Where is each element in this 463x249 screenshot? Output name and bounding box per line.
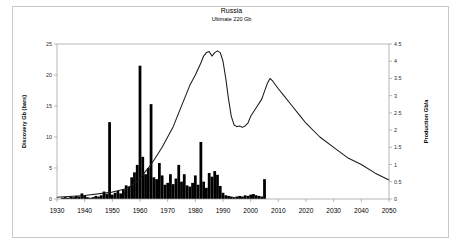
x-tick-label: 2020 bbox=[299, 207, 314, 214]
x-tick-label: 1980 bbox=[188, 207, 203, 214]
x-tick-label: 1970 bbox=[160, 207, 175, 214]
y2-tick-label: 4.5 bbox=[394, 41, 402, 47]
bar bbox=[105, 194, 108, 199]
bar bbox=[258, 196, 261, 199]
bar bbox=[252, 194, 255, 199]
bar bbox=[247, 196, 250, 199]
bar bbox=[97, 197, 100, 199]
y-tick-label: 25 bbox=[46, 41, 52, 47]
bar bbox=[255, 195, 258, 199]
bar bbox=[147, 168, 150, 199]
x-tick-label: 1930 bbox=[50, 207, 65, 214]
y2-tick-label: 3 bbox=[394, 93, 397, 99]
y2-tick-label: 2 bbox=[394, 127, 397, 133]
bar bbox=[169, 174, 172, 199]
y2-tick-label: 0 bbox=[394, 196, 397, 202]
bar bbox=[116, 191, 119, 199]
x-tick-label: 1940 bbox=[77, 207, 92, 214]
bar bbox=[194, 175, 197, 199]
discovery-bars-group bbox=[61, 66, 266, 199]
x-tick-label: 2030 bbox=[326, 207, 341, 214]
bar bbox=[78, 197, 81, 199]
x-tick-label: 2000 bbox=[243, 207, 258, 214]
bar bbox=[152, 177, 155, 199]
bar bbox=[241, 197, 244, 199]
bar bbox=[175, 179, 178, 199]
bar bbox=[244, 195, 247, 199]
x-tick-label: 2050 bbox=[382, 207, 397, 214]
bar bbox=[133, 172, 136, 199]
bar bbox=[219, 186, 222, 199]
y2-tick-label: 3.5 bbox=[394, 75, 402, 81]
bar bbox=[208, 173, 211, 199]
y-tick-label: 20 bbox=[46, 72, 52, 78]
bar bbox=[227, 196, 230, 199]
y-tick-label: 0 bbox=[49, 196, 52, 202]
bar bbox=[158, 163, 161, 199]
y-tick-label: 5 bbox=[49, 165, 52, 171]
bar bbox=[238, 196, 241, 199]
bar bbox=[122, 190, 125, 199]
y-tick-label: 10 bbox=[46, 134, 52, 140]
bar bbox=[172, 184, 175, 199]
y2-axis-title: Production Gb/a bbox=[423, 99, 429, 143]
bar bbox=[235, 197, 238, 199]
bar bbox=[202, 182, 205, 199]
y-axis-title: Discovery Gb (bars) bbox=[21, 95, 27, 148]
bar bbox=[130, 177, 133, 199]
bar bbox=[188, 187, 191, 199]
bar bbox=[94, 196, 97, 199]
bar bbox=[119, 193, 122, 199]
bar bbox=[230, 197, 233, 199]
bar bbox=[164, 185, 167, 199]
bar bbox=[249, 195, 252, 199]
bar bbox=[144, 174, 147, 199]
bar bbox=[177, 165, 180, 199]
chart-svg: 051015202500.511.522.533.544.51930194019… bbox=[0, 0, 463, 249]
bar bbox=[216, 175, 219, 199]
production-curve-group bbox=[57, 51, 389, 197]
y2-tick-label: 1 bbox=[394, 162, 397, 168]
bar bbox=[197, 185, 200, 199]
production-curve bbox=[57, 51, 389, 197]
bar bbox=[211, 177, 214, 199]
x-tick-label: 1990 bbox=[216, 207, 231, 214]
bar bbox=[166, 183, 169, 199]
bar bbox=[128, 187, 131, 199]
bar bbox=[183, 174, 186, 199]
x-tick-label: 1960 bbox=[133, 207, 148, 214]
y2-tick-label: 2.5 bbox=[394, 110, 402, 116]
bar bbox=[111, 195, 114, 199]
x-tick-label: 2040 bbox=[354, 207, 369, 214]
bar bbox=[100, 195, 103, 199]
bar bbox=[125, 185, 128, 199]
bar bbox=[186, 185, 189, 199]
bar bbox=[141, 157, 144, 199]
bar bbox=[108, 122, 111, 199]
y2-tick-label: 4 bbox=[394, 58, 397, 64]
axes-group bbox=[54, 44, 392, 202]
bar bbox=[263, 179, 266, 199]
bar bbox=[213, 171, 216, 199]
y-tick-label: 15 bbox=[46, 103, 52, 109]
x-tick-label: 1950 bbox=[105, 207, 120, 214]
bar bbox=[199, 142, 202, 199]
y2-tick-label: 0.5 bbox=[394, 179, 402, 185]
bar bbox=[161, 175, 164, 199]
bar bbox=[114, 193, 117, 199]
bar bbox=[260, 197, 263, 199]
y2-tick-label: 1.5 bbox=[394, 144, 402, 150]
bar bbox=[205, 188, 208, 199]
bar bbox=[222, 193, 225, 199]
axis-labels-group: 051015202500.511.522.533.544.51930194019… bbox=[21, 41, 429, 214]
bar bbox=[180, 182, 183, 199]
bar bbox=[150, 104, 153, 199]
x-tick-label: 2010 bbox=[271, 207, 286, 214]
bar bbox=[191, 183, 194, 199]
chart-plot-area: 051015202500.511.522.533.544.51930194019… bbox=[0, 0, 463, 249]
bar bbox=[224, 195, 227, 199]
bar bbox=[155, 179, 158, 199]
